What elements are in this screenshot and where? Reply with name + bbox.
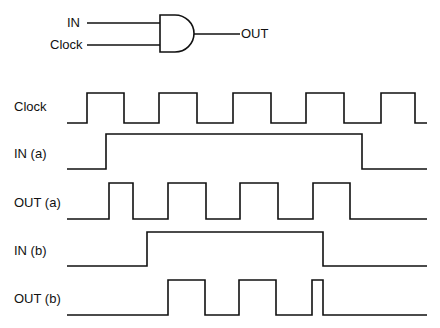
- waveform-out-b: [67, 280, 427, 315]
- waveform-in-a: [67, 134, 427, 169]
- signal-label-out-a: OUT (a): [14, 196, 61, 210]
- signal-label-clock: Clock: [14, 100, 47, 114]
- waveform-in-b: [67, 232, 427, 266]
- gate-output-label: OUT: [241, 27, 268, 41]
- waveforms: [67, 93, 427, 315]
- gate-input-in-label: IN: [67, 16, 80, 30]
- waveform-out-a: [67, 183, 427, 219]
- and-gate-icon: [160, 15, 194, 52]
- signal-label-in-a: IN (a): [14, 147, 47, 161]
- signal-label-out-b: OUT (b): [14, 292, 61, 306]
- and-gate-schematic: [87, 15, 240, 52]
- waveform-clock: [67, 93, 427, 123]
- signal-label-in-b: IN (b): [14, 244, 47, 258]
- gate-input-clock-label: Clock: [50, 38, 83, 52]
